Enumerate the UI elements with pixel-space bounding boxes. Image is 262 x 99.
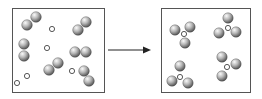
diatomic-atom — [73, 25, 84, 36]
tetra-center-atom — [181, 31, 186, 36]
tetra-arm-atom — [167, 76, 177, 86]
tetra-arm-atom — [214, 28, 224, 38]
tetra-arm-atom — [170, 25, 180, 35]
diatomic-atom — [81, 17, 92, 28]
diatomic-atom — [79, 66, 90, 77]
diatomic-atom — [19, 39, 30, 50]
single-atom — [44, 45, 49, 50]
diatomic-atom — [22, 20, 33, 31]
single-atom — [14, 80, 19, 85]
tetra-arm-atom — [180, 38, 190, 48]
single-atom — [49, 26, 54, 31]
tetra-arm-atom — [223, 13, 233, 23]
single-atom — [24, 73, 29, 78]
tetra-center-atom — [177, 74, 182, 79]
diatomic-atom — [81, 47, 92, 58]
diatomic-atom — [44, 65, 55, 76]
diatomic-atom — [70, 47, 81, 58]
reaction-arrow — [108, 47, 151, 54]
tetra-center-atom — [225, 25, 230, 30]
reaction-diagram — [0, 0, 262, 99]
diatomic-atom — [19, 51, 30, 62]
single-atom — [69, 68, 74, 73]
tetra-center-atom — [224, 64, 229, 69]
tetra-arm-atom — [217, 71, 227, 81]
diatomic-atom — [53, 58, 64, 69]
diatomic-atom — [31, 12, 42, 23]
diatomic-atom — [84, 76, 95, 87]
tetra-arm-atom — [231, 59, 241, 69]
tetra-arm-atom — [183, 78, 193, 88]
tetra-arm-atom — [175, 61, 185, 71]
tetra-arm-atom — [217, 52, 227, 62]
tetra-arm-atom — [231, 27, 241, 37]
tetra-arm-atom — [185, 22, 195, 32]
